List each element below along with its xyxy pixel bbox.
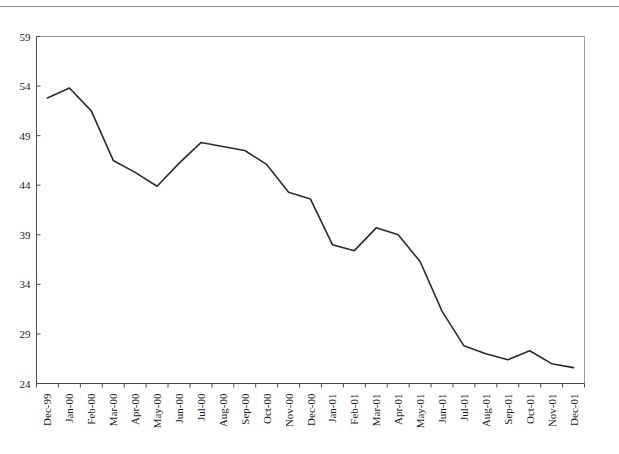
chart-svg: 2429343944495459 Dec-99Jan-00Feb-00Mar-0… bbox=[0, 0, 619, 454]
x-tick-label: Mar-00 bbox=[107, 393, 119, 426]
x-tick-label: Dec-00 bbox=[305, 393, 317, 426]
x-tick-label: Feb-00 bbox=[85, 393, 97, 425]
x-tick-label: Oct-01 bbox=[524, 394, 536, 425]
x-tick-label: Dec-01 bbox=[568, 394, 580, 426]
plot-frame bbox=[37, 37, 585, 384]
y-tick-label: 44 bbox=[20, 179, 32, 191]
y-tick-label: 39 bbox=[20, 229, 32, 241]
y-axis-labels: 2429343944495459 bbox=[20, 31, 32, 390]
x-axis-labels: Dec-99Jan-00Feb-00Mar-00Apr-00May-00Jun-… bbox=[41, 393, 579, 428]
x-tick-label: Apr-00 bbox=[129, 393, 141, 425]
y-tick-label: 49 bbox=[20, 130, 32, 142]
x-tick-label: Nov-01 bbox=[546, 394, 558, 428]
x-tick-label: Jun-00 bbox=[173, 393, 185, 423]
x-tick-label: Aug-01 bbox=[480, 394, 492, 428]
y-tick-label: 24 bbox=[20, 378, 32, 390]
x-tick-label: Dec-99 bbox=[41, 393, 53, 426]
x-tick-label: May-01 bbox=[414, 394, 426, 429]
line-chart: 2429343944495459 Dec-99Jan-00Feb-00Mar-0… bbox=[0, 0, 619, 454]
y-tick-label: 54 bbox=[20, 80, 32, 92]
axis-lines bbox=[37, 37, 585, 384]
x-tick-label: Nov-00 bbox=[283, 393, 295, 427]
x-axis-ticks bbox=[37, 384, 585, 388]
y-axis-ticks bbox=[37, 37, 41, 334]
y-tick-label: 59 bbox=[20, 31, 32, 43]
x-tick-label: Aug-00 bbox=[217, 393, 229, 427]
x-tick-label: Feb-01 bbox=[348, 394, 360, 425]
x-tick-label: May-00 bbox=[151, 393, 163, 428]
x-tick-label: Sep-01 bbox=[502, 394, 514, 425]
series-line bbox=[47, 88, 573, 368]
x-tick-label: Jul-00 bbox=[195, 393, 207, 421]
x-tick-label: Sep-00 bbox=[239, 393, 251, 425]
y-tick-label: 29 bbox=[20, 328, 32, 340]
x-tick-label: Oct-00 bbox=[261, 393, 273, 424]
plot-border bbox=[37, 37, 585, 384]
x-tick-label: Jan-01 bbox=[326, 394, 338, 423]
x-tick-label: Apr-01 bbox=[392, 394, 404, 426]
x-tick-label: Mar-01 bbox=[370, 394, 382, 427]
x-tick-label: Jan-00 bbox=[63, 393, 75, 423]
y-tick-label: 34 bbox=[20, 278, 32, 290]
data-series bbox=[47, 88, 573, 368]
x-tick-label: Jul-01 bbox=[458, 394, 470, 422]
x-tick-label: Jun-01 bbox=[436, 394, 448, 424]
chart-page: 2429343944495459 Dec-99Jan-00Feb-00Mar-0… bbox=[0, 0, 619, 454]
